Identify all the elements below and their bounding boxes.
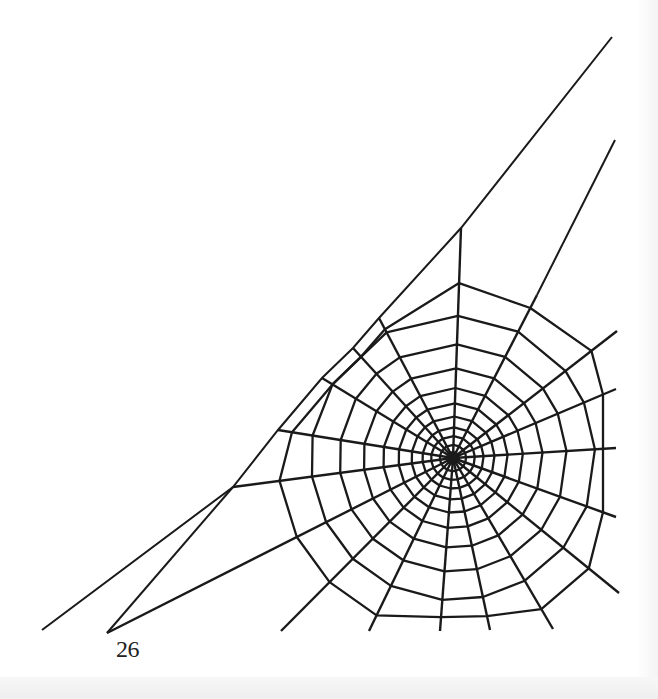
book-page: 26	[0, 0, 658, 699]
frame-thread	[107, 487, 233, 633]
page-edge-shadow	[636, 0, 658, 699]
radial-thread	[453, 389, 616, 458]
radial-thread	[453, 228, 461, 458]
spider-web-illustration	[0, 0, 658, 699]
page-bottom-shadow	[0, 677, 658, 699]
radial-thread	[440, 458, 453, 631]
radial-thread	[453, 448, 616, 458]
web-spiral-rings	[280, 283, 604, 617]
web-frame-threads	[42, 37, 615, 633]
frame-thread	[537, 140, 615, 295]
web-radial-threads	[107, 228, 619, 633]
radial-thread	[453, 295, 537, 458]
page-number: 26	[116, 636, 139, 663]
radial-thread	[281, 458, 453, 631]
web-hub	[446, 451, 460, 465]
